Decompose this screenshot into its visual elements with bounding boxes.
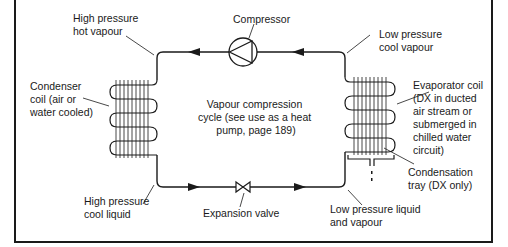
label-hp-cool-liquid: High pressure cool liquid bbox=[84, 195, 152, 220]
drain-drops bbox=[371, 171, 373, 181]
label-condensation-tray: Condensation tray (DX only) bbox=[408, 166, 476, 191]
evaporator-coil bbox=[345, 77, 395, 155]
label-evaporator: Evaporator coil (DX in ducted air stream… bbox=[413, 79, 486, 156]
label-expansion-valve: Expansion valve bbox=[203, 207, 280, 219]
compressor-symbol bbox=[229, 38, 257, 66]
arrow-top-far-right-icon bbox=[292, 48, 304, 56]
label-lp-cool-vapour: Low pressure cool vapour bbox=[379, 28, 445, 53]
condenser-coil bbox=[110, 80, 157, 158]
label-hp-hot-vapour: High pressure hot vapour bbox=[73, 12, 141, 37]
condenser-fins bbox=[116, 80, 148, 158]
expansion-valve-symbol bbox=[236, 182, 250, 192]
label-center-cycle: Vapour compression cycle (see use as a h… bbox=[198, 98, 314, 136]
evaporator-fins bbox=[354, 77, 386, 155]
arrow-bottom-left-icon bbox=[188, 183, 200, 191]
arrow-bottom-right-icon bbox=[294, 183, 306, 191]
vapour-compression-diagram: High pressure hot vapour Compressor Low … bbox=[0, 0, 508, 247]
arrow-top-right-icon bbox=[188, 48, 200, 56]
label-compressor: Compressor bbox=[233, 13, 291, 25]
labels: High pressure hot vapour Compressor Low … bbox=[29, 12, 486, 228]
label-condenser: Condenser coil (air or water cooled) bbox=[29, 80, 93, 118]
condensation-tray bbox=[348, 155, 394, 166]
label-lp-liquid-vapour: Low pressure liquid and vapour bbox=[330, 203, 423, 228]
